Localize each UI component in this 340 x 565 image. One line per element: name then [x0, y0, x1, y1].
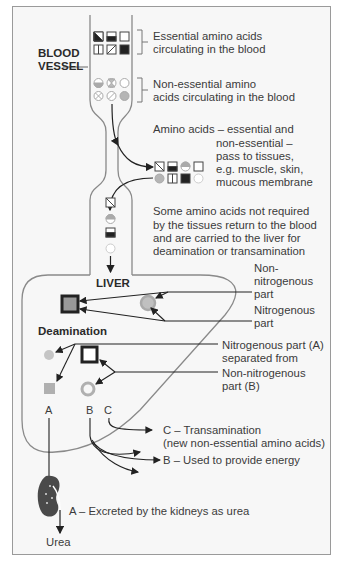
label-nitrogenous-top-1: Nitrogenous	[254, 304, 315, 318]
label-non-nitrogenous-b-1: Non-nitrogenous	[222, 367, 306, 381]
label-essential-2: circulating in the blood	[153, 43, 265, 57]
label-nitrogenous-a-1: Nitrogenous part (A)	[222, 339, 324, 353]
label-return-3: and are carried to the liver for	[153, 232, 301, 246]
letter-c: C	[104, 404, 112, 416]
label-energy: B – Used to provide energy	[163, 454, 300, 468]
letter-a: A	[45, 404, 52, 416]
label-blood: BLOOD	[38, 47, 80, 61]
non-essential-symbols	[94, 79, 129, 101]
label-tissues-2: non-essential –	[216, 137, 293, 151]
essential-symbols	[94, 32, 129, 54]
label-excreted: A – Excreted by the kidneys as urea	[69, 505, 249, 519]
label-tissues-4: e.g. muscle, skin,	[216, 163, 303, 177]
return-symbols	[106, 198, 115, 253]
label-return-1: Some amino acids not required	[153, 205, 309, 219]
path-b-3	[93, 442, 138, 472]
label-return-4: deamination or transamination	[153, 245, 305, 259]
kidney-icon	[38, 476, 60, 517]
label-transamination-2: (new non-essential amino acids)	[163, 437, 325, 451]
letter-b: B	[86, 404, 93, 416]
label-non-nitrogenous-top-2: nitrogenous	[254, 275, 313, 289]
non-nitrogenous-circle-b	[82, 383, 94, 395]
label-nitrogenous-top-2: part	[254, 317, 273, 331]
label-non-nitrogenous-top-3: part	[254, 288, 273, 302]
label-nitrogenous-a-2: separated from	[222, 352, 298, 366]
label-liver: LIVER	[96, 277, 130, 291]
label-return-2: by the tissues return to the blood	[153, 219, 317, 233]
tissue-symbols	[155, 162, 203, 183]
nitrogenous-circle-a	[44, 350, 54, 360]
amino-acid-circle	[141, 296, 155, 310]
amino-acid-square	[62, 296, 78, 312]
label-vessel: VESSEL	[38, 60, 83, 74]
bracket-non-essential	[137, 78, 148, 102]
path-b-2	[92, 440, 160, 460]
label-tissues-1: Amino acids – essential and	[153, 123, 294, 137]
label-non-essential-1: Non-essential amino	[153, 78, 256, 92]
label-non-essential-2: acids circulating in the blood	[153, 91, 295, 105]
arrow-into-tissues	[118, 145, 153, 167]
label-tissues-5: mucous membrane	[216, 176, 313, 190]
bracket-essential	[137, 30, 148, 54]
label-urea: Urea	[46, 536, 71, 550]
label-non-nitrogenous-b-2: part (B)	[222, 380, 260, 394]
label-transamination-1: C – Transamination	[163, 424, 261, 438]
arrow-to-tissues	[112, 104, 118, 145]
label-deamination: Deamination	[38, 325, 107, 339]
label-non-nitrogenous-top-1: Non-	[254, 262, 279, 276]
label-tissues-3: pass to tissues,	[216, 150, 294, 164]
label-essential-1: Essential amino acids	[153, 30, 262, 44]
nitrogenous-square-a	[44, 383, 55, 394]
non-nitrogenous-square	[82, 347, 97, 362]
